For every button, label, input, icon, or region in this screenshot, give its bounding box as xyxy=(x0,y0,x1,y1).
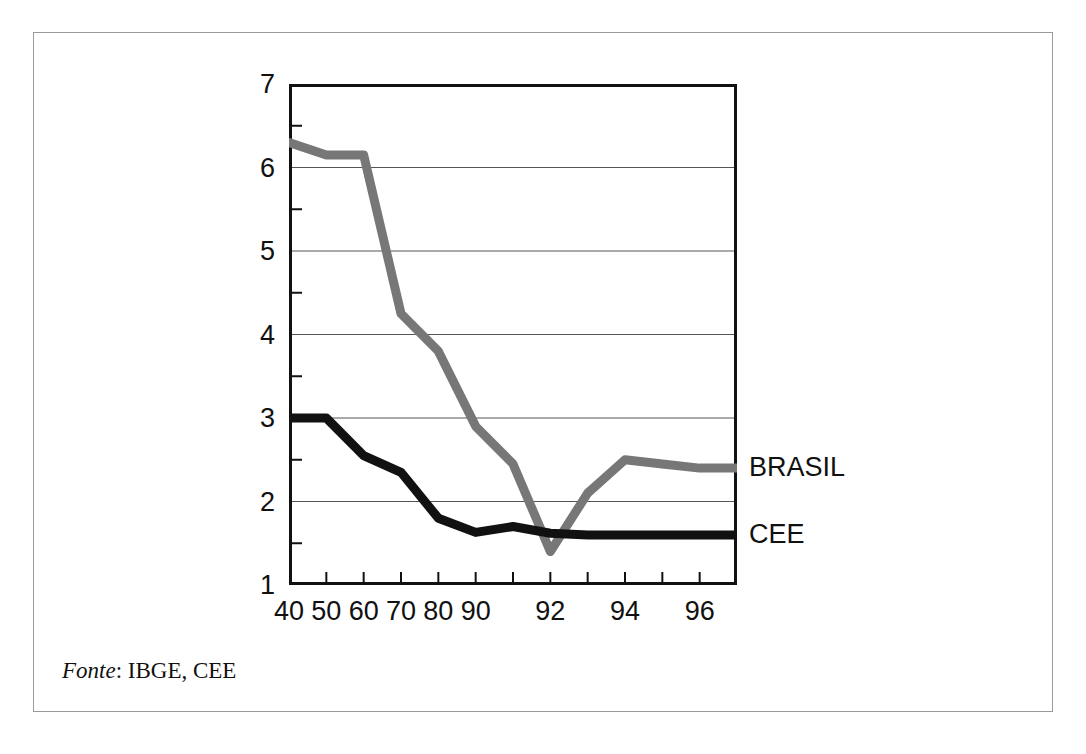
x-tick-label: 94 xyxy=(610,598,640,625)
x-tick-label: 70 xyxy=(386,598,416,625)
source-note-key: Fonte xyxy=(62,658,116,683)
x-tick-label: 40 xyxy=(274,598,304,625)
y-tick-label: 4 xyxy=(260,322,275,349)
y-axis-tick-labels: 7 6 5 4 3 2 1 xyxy=(243,84,275,585)
source-note: Fonte: IBGE, CEE xyxy=(62,658,236,684)
source-note-separator: : xyxy=(116,658,128,683)
x-tick-label: 80 xyxy=(423,598,453,625)
series-line-cee xyxy=(289,418,737,535)
y-tick-label: 2 xyxy=(260,489,275,516)
x-tick-label: 92 xyxy=(535,598,565,625)
series-label-brasil: BRASIL xyxy=(749,454,845,481)
y-tick-label: 7 xyxy=(260,71,275,98)
axis-lines xyxy=(289,86,737,586)
series-label-cee: CEE xyxy=(749,521,805,548)
x-tick-label: 50 xyxy=(311,598,341,625)
figure-root: 7 6 5 4 3 2 1 405060708090929496 BRASIL … xyxy=(0,0,1086,754)
x-axis-tick-labels: 405060708090929496 xyxy=(289,598,737,634)
axis-frame xyxy=(291,86,736,586)
y-tick-label: 5 xyxy=(260,238,275,265)
y-tick-label: 1 xyxy=(260,572,275,599)
y-tick-label: 6 xyxy=(260,155,275,182)
x-tick-label: 60 xyxy=(349,598,379,625)
x-tick-label: 96 xyxy=(685,598,715,625)
y-tick-label: 3 xyxy=(260,405,275,432)
plot-area xyxy=(289,84,737,585)
source-note-value: IBGE, CEE xyxy=(128,658,237,683)
chart-canvas xyxy=(289,84,737,585)
series-line-brasil xyxy=(289,142,737,551)
series-lines xyxy=(289,142,737,551)
x-tick-label: 90 xyxy=(461,598,491,625)
